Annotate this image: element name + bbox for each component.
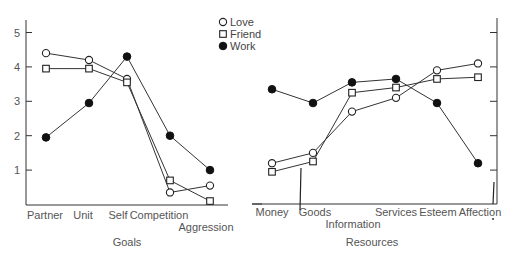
series-work-marker — [309, 99, 317, 107]
series-work-marker — [206, 166, 214, 174]
goals-panel: 12345 PartnerUnitSelfCompetitionAggressi… — [14, 20, 234, 248]
resources-y-ticks — [490, 33, 497, 171]
series-line-friend — [46, 69, 210, 201]
y-tick-label: 4 — [14, 61, 20, 73]
series-friend-marker — [310, 158, 317, 165]
series-work-marker — [123, 53, 131, 61]
y-tick-label: 5 — [14, 27, 20, 39]
series-love-marker — [433, 67, 440, 74]
series-love-marker — [392, 94, 399, 101]
series-friend-marker — [269, 169, 276, 176]
series-friend-marker — [124, 79, 131, 86]
series-line-love — [46, 53, 210, 192]
series-line-work — [272, 79, 478, 163]
category-label: Partner — [27, 209, 63, 221]
legend-label-love: Love — [230, 16, 254, 28]
resources-axis-title: Resources — [346, 236, 399, 248]
category-label: Aggression — [178, 221, 233, 233]
series-love-marker — [348, 108, 355, 115]
series-work-marker — [474, 159, 482, 167]
series-line-work — [46, 57, 210, 171]
scan-dot — [492, 218, 494, 220]
series-work-marker — [433, 99, 441, 107]
series-love-marker — [268, 160, 275, 167]
goals-y-ticks: 12345 — [14, 27, 32, 177]
chart-canvas: 12345 PartnerUnitSelfCompetitionAggressi… — [0, 0, 514, 263]
series-love-marker — [85, 56, 92, 63]
category-label: Esteem — [419, 206, 456, 218]
legend: LoveFriendWork — [219, 16, 261, 52]
resources-panel: MoneyGoodsInformationServicesEsteemAffec… — [252, 18, 501, 248]
legend-label-friend: Friend — [230, 28, 261, 40]
legend-label-work: Work — [230, 40, 256, 52]
series-work-marker — [268, 85, 276, 93]
goals-series — [42, 50, 214, 205]
series-friend-marker — [393, 84, 400, 91]
series-love-marker — [42, 50, 49, 57]
series-friend-marker — [475, 74, 482, 81]
y-tick-label: 3 — [14, 95, 20, 107]
goals-category-labels: PartnerUnitSelfCompetitionAggression — [27, 209, 234, 233]
series-work-marker — [166, 132, 174, 140]
series-friend-marker — [349, 89, 356, 96]
category-label: Self — [109, 209, 129, 221]
category-label: Competition — [130, 209, 189, 221]
category-label: Goods — [299, 206, 332, 218]
series-work-marker — [85, 99, 93, 107]
legend-work-marker — [219, 42, 227, 50]
series-friend-marker — [207, 198, 214, 205]
category-label: Services — [375, 206, 418, 218]
series-love-marker — [309, 149, 316, 156]
series-work-marker — [42, 134, 50, 142]
series-line-friend — [272, 77, 478, 172]
series-love-marker — [206, 182, 213, 189]
series-friend-marker — [86, 65, 93, 72]
series-love-marker — [474, 60, 481, 67]
category-label: Information — [325, 218, 380, 230]
category-label: Affection — [459, 206, 502, 218]
y-tick-label: 1 — [14, 164, 20, 176]
resources-series — [268, 60, 482, 175]
series-friend-marker — [434, 76, 441, 83]
legend-friend-marker — [220, 31, 227, 38]
y-tick-label: 2 — [14, 130, 20, 142]
category-label: Unit — [73, 209, 93, 221]
series-friend-marker — [43, 65, 50, 72]
series-work-marker — [392, 75, 400, 83]
goals-axis-title: Goals — [113, 236, 142, 248]
series-love-marker — [166, 189, 173, 196]
resources-category-labels: MoneyGoodsInformationServicesEsteemAffec… — [255, 206, 501, 230]
scan-mark — [493, 182, 494, 204]
series-friend-marker — [167, 177, 174, 184]
series-work-marker — [348, 79, 356, 87]
category-label: Money — [255, 206, 289, 218]
legend-love-marker — [219, 18, 226, 25]
